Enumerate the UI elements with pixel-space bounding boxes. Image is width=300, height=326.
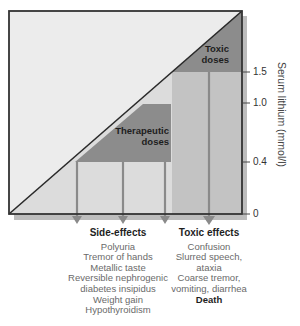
tick-label-1-5: 1.5 — [253, 66, 267, 77]
tick-label-0-4: 0.4 — [253, 156, 267, 167]
toxic-label-line-1: Toxic — [190, 43, 229, 54]
y-axis-title: Serum lithium (mmol/l) — [276, 62, 288, 167]
toxic-doses-label: Toxic doses — [190, 43, 229, 65]
toxic-label-line-2: doses — [190, 54, 229, 65]
death-label: Death — [164, 295, 254, 306]
list-item: diabetes insipidus — [68, 284, 168, 295]
list-item: Slurred speech, ataxia — [164, 252, 254, 273]
toxic-effects-heading: Toxic effects — [164, 228, 254, 239]
side-effects-heading: Side-effects — [68, 228, 168, 239]
therapeutic-label-line-2: doses — [108, 136, 169, 147]
tick-label-0: 0 — [253, 208, 259, 219]
therapeutic-label-line-1: Therapeutic — [108, 125, 169, 136]
side-effects-list: Side-effects Polyuria Tremor of hands Me… — [68, 228, 168, 316]
list-item: Hypothyroidism — [68, 305, 168, 316]
list-item: vomiting, diarrhea — [164, 284, 254, 295]
toxic-effects-list: Toxic effects Confusion Slurred speech, … — [164, 228, 254, 305]
therapeutic-doses-label: Therapeutic doses — [108, 125, 169, 147]
arrow-down-icon — [203, 216, 215, 225]
toxic-column — [172, 72, 242, 214]
tick-label-1-0: 1.0 — [253, 97, 267, 108]
